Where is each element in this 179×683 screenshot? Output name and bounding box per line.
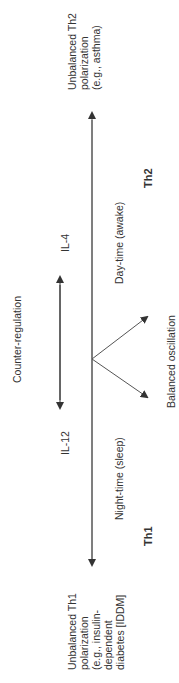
counter-regulation-label: Counter-regulation (11, 296, 23, 383)
th2-label: Th2 (142, 168, 154, 188)
bottom-label-line-4: dependent (102, 593, 114, 670)
balanced-oscillation-label: Balanced oscillation (165, 315, 177, 408)
bottom-label-line-1: Unbalanced Th1 (66, 593, 78, 670)
il4-label: IL-4 (59, 234, 71, 252)
bottom-label-line-5: diabetes [IDDM] (114, 593, 126, 670)
bottom-label: Unbalanced Th1 polarization (e.g., insul… (66, 593, 126, 670)
top-label-line-1: Unbalanced Th2 (66, 13, 78, 90)
il12-label: IL-12 (59, 431, 71, 455)
diagram-arrows (0, 0, 179, 683)
top-label-line-2: polarization (78, 13, 90, 90)
night-time-label: Night-time (sleep) (113, 437, 125, 520)
top-label-line-3: (e.g., asthma) (90, 13, 102, 90)
bottom-label-line-2: polarization (78, 593, 90, 670)
th1-label: Th1 (142, 526, 154, 546)
bottom-label-line-3: (e.g., insulin- (90, 593, 102, 670)
top-label: Unbalanced Th2 polarization (e.g., asthm… (66, 13, 102, 90)
day-time-label: Day-time (awake) (113, 202, 125, 284)
